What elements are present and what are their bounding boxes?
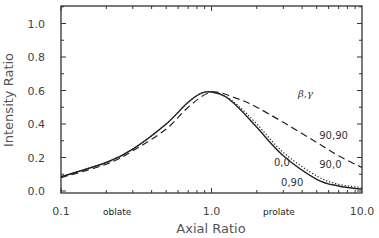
y-tick-label: 0.2 bbox=[28, 152, 46, 165]
x-tick-labels: 0.11.010.0 bbox=[52, 205, 374, 218]
y-tick-label: 0.8 bbox=[28, 51, 46, 64]
region-label-oblate: oblate bbox=[103, 207, 132, 217]
x-tick-label: 0.1 bbox=[52, 205, 70, 218]
y-tick-labels: 0.00.20.40.60.81.0 bbox=[28, 18, 46, 199]
data-curves bbox=[61, 92, 362, 189]
curve-label: 0,90 bbox=[281, 177, 303, 188]
y-tick-label: 1.0 bbox=[28, 18, 46, 31]
x-tick-label: 1.0 bbox=[203, 205, 221, 218]
curve-0-90 bbox=[61, 92, 362, 188]
legend-title: β,γ bbox=[297, 88, 313, 99]
curve-label: 0,0 bbox=[274, 157, 290, 168]
curve-90-90 bbox=[61, 92, 362, 178]
y-axis-title: Intensity Ratio bbox=[1, 53, 16, 147]
y-tick-label: 0.4 bbox=[28, 118, 46, 131]
axis-ticks bbox=[61, 6, 362, 193]
x-axis-title: Axial Ratio bbox=[176, 221, 245, 236]
curve-0-0 bbox=[61, 92, 362, 189]
curve-label: 90,90 bbox=[319, 130, 348, 141]
intensity-ratio-chart: 0.00.20.40.60.81.0 0.11.010.0 90,9090,00… bbox=[0, 0, 379, 238]
x-tick-label: 10.0 bbox=[350, 205, 375, 218]
y-tick-label: 0.0 bbox=[28, 185, 46, 198]
curve-label: 90,0 bbox=[319, 159, 341, 170]
region-label-prolate: prolate bbox=[263, 207, 295, 217]
plot-frame bbox=[61, 6, 362, 193]
y-tick-label: 0.6 bbox=[28, 85, 46, 98]
